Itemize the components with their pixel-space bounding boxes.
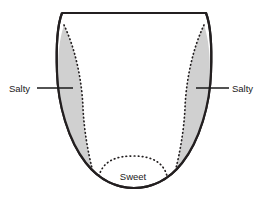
sweet-label: Sweet (120, 171, 147, 182)
salty-right-label: Salty (232, 83, 253, 94)
tongue-diagram: Salty Salty Sweet (0, 0, 264, 199)
salty-left-label: Salty (9, 83, 30, 94)
tongue-diagram-canvas: Salty Salty Sweet (0, 0, 264, 199)
